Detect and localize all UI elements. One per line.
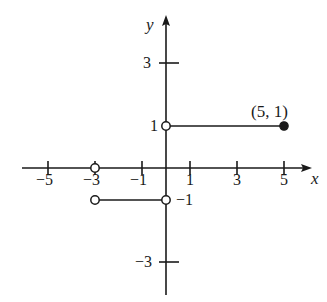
x-tick-label-pos3: 3 xyxy=(233,172,241,188)
x-tick-label-pos5: 5 xyxy=(280,172,288,188)
point-annotation-label: (5, 1) xyxy=(251,103,288,120)
y-tick-label-pos1: 1 xyxy=(150,118,158,134)
open-point-neg3-neg1 xyxy=(91,196,99,204)
y-tick-label-neg3: −3 xyxy=(135,254,152,270)
y-tick-label-neg1: −1 xyxy=(176,192,193,208)
x-tick-label-neg3: −3 xyxy=(83,172,100,188)
x-axis-label: x xyxy=(311,170,319,187)
y-tick-label-pos3: 3 xyxy=(143,55,151,71)
x-tick-label-neg5: −5 xyxy=(36,172,53,188)
x-tick-label-pos1: 1 xyxy=(186,172,194,188)
coordinate-plane-svg xyxy=(0,0,327,302)
closed-point-5-1 xyxy=(280,122,288,130)
open-point-0-neg1 xyxy=(162,196,170,204)
open-point-0-1 xyxy=(162,122,170,130)
graph-figure: −5 −3 −1 1 3 5 3 1 −1 −3 x y (5, 1) xyxy=(0,0,327,302)
y-axis-label: y xyxy=(146,16,154,33)
x-tick-label-neg1: −1 xyxy=(130,172,147,188)
